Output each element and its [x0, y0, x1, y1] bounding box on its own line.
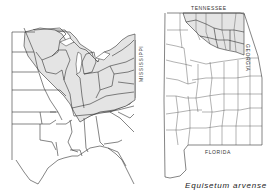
label-mississippi: MISSISSIPPI [138, 46, 144, 82]
label-georgia: GEORGIA [245, 44, 251, 72]
eastern-us-map [12, 28, 135, 184]
label-florida: FLORIDA [205, 149, 231, 155]
distribution-map [0, 0, 271, 195]
shaded-counties-north-alabama [183, 13, 244, 55]
species-caption: Equisetum arvense [185, 181, 267, 190]
label-tennessee: TENNESSEE [191, 5, 227, 11]
shaded-range-north [24, 28, 135, 122]
